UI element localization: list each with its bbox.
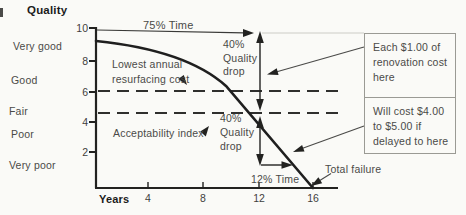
x-tick-4: 4 bbox=[140, 192, 156, 204]
annotation-time-12: 12% Time bbox=[251, 173, 299, 187]
y-category-very-good: Very good bbox=[13, 40, 62, 54]
callout-box-group: Each $1.00 of renovation cost here Will … bbox=[364, 33, 456, 154]
y-category-poor: Poor bbox=[11, 128, 34, 142]
scan-artifact bbox=[0, 8, 3, 17]
annotation-quality-drop-upper: 40% Quality drop bbox=[223, 38, 257, 79]
y-tick-10: 10 bbox=[66, 22, 88, 34]
annotation-total-failure: Total failure bbox=[325, 163, 381, 177]
time-12-arrow bbox=[261, 161, 293, 168]
y-category-good: Good bbox=[11, 74, 38, 88]
callout-renovation-cost: Each $1.00 of renovation cost here bbox=[365, 34, 455, 98]
x-tick-12: 12 bbox=[251, 192, 267, 204]
annotation-quality-drop-lower: 40% Quality drop bbox=[220, 111, 254, 153]
y-tick-4: 4 bbox=[66, 116, 88, 128]
delayed-cost-pointer-arrow bbox=[293, 126, 364, 152]
x-tick-16: 16 bbox=[305, 192, 321, 204]
x-tick-8: 8 bbox=[195, 192, 211, 204]
y-axis-line bbox=[89, 27, 96, 188]
y-category-fair: Fair bbox=[9, 105, 28, 119]
x-axis-title: Years bbox=[99, 193, 129, 205]
annotation-lowest-resurfacing: Lowest annual resurfacing cost bbox=[112, 57, 189, 87]
y-category-very-poor: Very poor bbox=[9, 159, 56, 173]
renovation-pointer-arrow bbox=[267, 47, 364, 75]
annotation-time-75: 75% Time bbox=[143, 19, 194, 33]
deterioration-chart: Quality Years Very good Good Fair Poor V… bbox=[0, 0, 466, 215]
y-axis-title: Quality bbox=[27, 4, 67, 16]
y-tick-8: 8 bbox=[66, 55, 88, 67]
y-tick-2: 2 bbox=[66, 146, 88, 158]
annotation-acceptability-index: Acceptability index bbox=[113, 127, 204, 141]
x-axis-line bbox=[95, 182, 338, 189]
y-tick-6: 6 bbox=[66, 86, 88, 98]
quality-drop-upper-arrow bbox=[256, 31, 264, 111]
callout-delayed-cost: Will cost $4.00 to $5.00 if delayed to h… bbox=[365, 98, 455, 149]
